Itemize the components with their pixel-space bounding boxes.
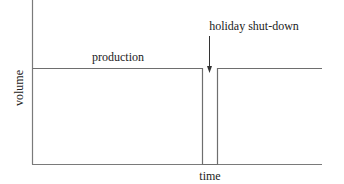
production-line [33, 69, 323, 165]
y-axis-label: volume [12, 70, 26, 106]
shutdown-label: holiday shut-down [209, 19, 299, 33]
production-label: production [92, 50, 144, 64]
chart: production holiday shut-down time volume [0, 0, 344, 184]
arrow-head-icon [207, 66, 212, 73]
x-axis-label: time [199, 169, 220, 183]
